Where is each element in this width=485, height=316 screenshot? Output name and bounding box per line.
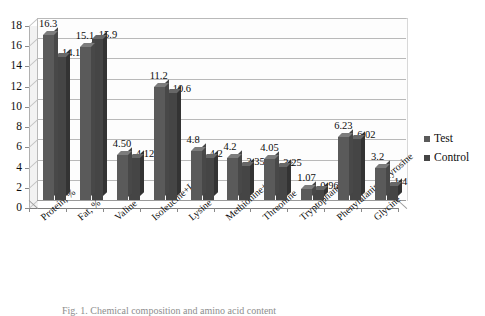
bar-side-face — [165, 79, 169, 196]
bar-test-1[interactable] — [80, 47, 91, 200]
bar-front-face — [43, 35, 54, 200]
bar-value-label-test-9: 3.2 — [371, 152, 384, 163]
y-tick-label-8: 8 — [0, 121, 22, 133]
y-tick-label-10: 10 — [0, 101, 22, 113]
bar-side-face — [91, 39, 95, 196]
y-tick-label-6: 6 — [0, 141, 22, 153]
y-tick-label-16: 16 — [0, 40, 22, 52]
y-tick-label-18: 18 — [0, 20, 22, 32]
bar-test-5[interactable] — [227, 158, 238, 200]
x-tick-0 — [29, 208, 30, 212]
bar-front-face — [264, 159, 275, 200]
x-tick-8 — [324, 208, 325, 212]
legend-item-test[interactable]: Test — [424, 133, 469, 144]
x-tick-5 — [214, 208, 215, 212]
bar-front-face — [338, 137, 349, 200]
y-tick-label-2: 2 — [0, 182, 22, 194]
bar-value-label-test-7: 1.07 — [297, 173, 315, 184]
bars-layer — [37, 18, 406, 200]
bar-side-face — [361, 131, 365, 196]
bar-front-face — [191, 151, 202, 200]
x-tick-3 — [140, 208, 141, 212]
x-tick-4 — [177, 208, 178, 212]
bar-front-face — [117, 155, 128, 201]
legend-swatch-test — [424, 136, 430, 142]
bar-side-face — [66, 50, 70, 196]
plot-area — [29, 18, 406, 208]
legend-label-control: Control — [434, 152, 469, 163]
bar-side-face — [103, 31, 107, 196]
x-tick-6 — [250, 208, 251, 212]
bar-side-face — [202, 144, 206, 196]
bar-side-face — [177, 85, 181, 196]
y-tick-label-0: 0 — [0, 202, 22, 214]
x-tick-7 — [287, 208, 288, 212]
bar-test-4[interactable] — [191, 151, 202, 200]
bar-value-label-test-0: 16.3 — [39, 19, 57, 30]
bar-test-3[interactable] — [154, 87, 165, 200]
x-tick-end — [398, 208, 399, 212]
bar-value-label-test-4: 4.8 — [187, 135, 200, 146]
bar-test-7[interactable] — [301, 189, 312, 200]
chart-legend: Test Control — [424, 133, 469, 171]
y-tick-label-12: 12 — [0, 81, 22, 93]
bar-value-label-test-5: 4.2 — [223, 142, 236, 153]
bar-test-8[interactable] — [338, 137, 349, 200]
legend-label-test: Test — [434, 133, 453, 144]
figure-caption: Fig. 1. Chemical composition and amino a… — [62, 305, 276, 316]
bar-test-2[interactable] — [117, 155, 128, 201]
bar-side-face — [349, 129, 353, 196]
legend-swatch-control — [424, 155, 430, 161]
bar-front-face — [227, 158, 238, 200]
bar-front-face — [301, 189, 312, 200]
y-tick-label-14: 14 — [0, 60, 22, 72]
bar-side-face — [398, 178, 402, 196]
bar-front-face — [80, 47, 91, 200]
bar-front-face — [154, 87, 165, 200]
bar-side-face — [54, 27, 58, 196]
bar-value-label-test-6: 4.05 — [260, 143, 278, 154]
x-tick-2 — [103, 208, 104, 212]
bar-test-0[interactable] — [43, 35, 54, 200]
bar-test-9[interactable] — [375, 168, 386, 200]
x-tick-9 — [361, 208, 362, 212]
bar-value-label-test-8: 6.23 — [334, 121, 352, 132]
y-tick-label-4: 4 — [0, 162, 22, 174]
bar-value-label-test-3: 11.2 — [150, 71, 168, 82]
bar-value-label-test-2: 4.50 — [113, 139, 131, 150]
legend-item-control[interactable]: Control — [424, 152, 469, 163]
bar-front-face — [375, 168, 386, 200]
x-tick-1 — [66, 208, 67, 212]
bar-test-6[interactable] — [264, 159, 275, 200]
